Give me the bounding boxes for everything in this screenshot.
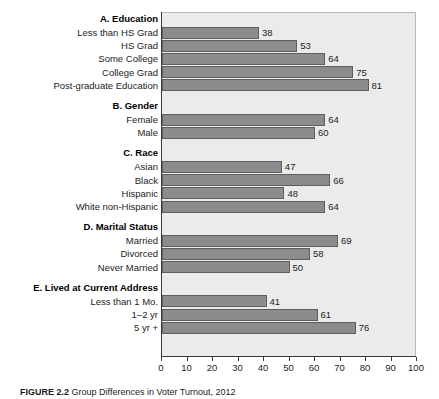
- bar-row: Less than HS Grad38: [0, 26, 439, 39]
- group-header-5: E. Lived at Current Address: [0, 281, 158, 294]
- bar-value-label: 50: [293, 261, 304, 274]
- bar-row: Black66: [0, 174, 439, 187]
- bar-category-label: Hispanic: [0, 187, 158, 200]
- bar: [162, 27, 259, 39]
- bar: [162, 201, 325, 213]
- bar-value-label: 64: [328, 200, 339, 213]
- group-header-4: D. Marital Status: [0, 220, 158, 233]
- group-header-1: A. Education: [0, 12, 158, 25]
- bar: [162, 40, 297, 52]
- x-axis-tick: [289, 357, 290, 361]
- figure-container: A. EducationLess than HS Grad38HS Grad53…: [0, 0, 439, 399]
- bar-value-label: 53: [300, 39, 311, 52]
- bar-category-label: Never Married: [0, 261, 158, 274]
- bar-value-label: 38: [262, 26, 273, 39]
- bar: [162, 174, 330, 186]
- bar-value-label: 61: [321, 308, 332, 321]
- bar-category-label: 5 yr +: [0, 321, 158, 334]
- bar: [162, 261, 290, 273]
- bar-category-label: HS Grad: [0, 39, 158, 52]
- x-axis-tick-label: 80: [360, 362, 371, 374]
- bar-row: College Grad75: [0, 66, 439, 79]
- bar: [162, 66, 353, 78]
- x-axis-tick: [314, 357, 315, 361]
- bar-category-label: Some College: [0, 52, 158, 65]
- x-axis-tick: [340, 357, 341, 361]
- bar-value-label: 64: [328, 52, 339, 65]
- bar-row: Female64: [0, 113, 439, 126]
- figure-caption-label: FIGURE 2.2: [20, 387, 69, 397]
- bar: [162, 127, 315, 139]
- figure-caption: FIGURE 2.2 Group Differences in Voter Tu…: [20, 386, 439, 399]
- x-axis-tick-label: 90: [385, 362, 396, 374]
- bar-value-label: 41: [270, 295, 281, 308]
- bar-value-label: 58: [313, 247, 324, 260]
- x-axis-tick: [212, 357, 213, 361]
- bar: [162, 295, 267, 307]
- x-axis-tick: [187, 357, 188, 361]
- x-axis-tick-label: 40: [258, 362, 269, 374]
- bar: [162, 322, 356, 334]
- bar-category-label: Less than HS Grad: [0, 26, 158, 39]
- bar-row: Hispanic48: [0, 187, 439, 200]
- x-axis-tick: [161, 357, 162, 361]
- x-axis-tick-label: 30: [232, 362, 243, 374]
- bar-category-label: Divorced: [0, 247, 158, 260]
- x-axis-tick: [263, 357, 264, 361]
- x-axis-tick-label: 70: [334, 362, 345, 374]
- bar-category-label: Black: [0, 174, 158, 187]
- bar-category-label: Married: [0, 234, 158, 247]
- x-axis-tick-label: 0: [158, 362, 163, 374]
- bar-row: Divorced58: [0, 247, 439, 260]
- bar-category-label: Less than 1 Mo.: [0, 295, 158, 308]
- bar-row: HS Grad53: [0, 39, 439, 52]
- bar-category-label: Male: [0, 126, 158, 139]
- bar: [162, 114, 325, 126]
- bar-category-label: Post-graduate Education: [0, 79, 158, 92]
- bar-category-label: 1–2 yr: [0, 308, 158, 321]
- x-axis-tick-label: 10: [181, 362, 192, 374]
- bar-value-label: 69: [341, 234, 352, 247]
- bar: [162, 187, 284, 199]
- figure-caption-text: Group Differences in Voter Turnout, 2012: [72, 387, 236, 397]
- x-axis-tick: [391, 357, 392, 361]
- bar: [162, 309, 318, 321]
- bar: [162, 248, 310, 260]
- bar-row: Less than 1 Mo.41: [0, 295, 439, 308]
- bar: [162, 161, 282, 173]
- bar-value-label: 81: [372, 79, 383, 92]
- bar-value-label: 64: [328, 113, 339, 126]
- bar-value-label: 66: [333, 174, 344, 187]
- bar-category-label: Female: [0, 113, 158, 126]
- bar-row: Never Married50: [0, 261, 439, 274]
- x-axis-tick-label: 50: [283, 362, 294, 374]
- group-header-3: C. Race: [0, 146, 158, 159]
- bar-row: Some College64: [0, 52, 439, 65]
- bar: [162, 235, 338, 247]
- x-axis-tick-label: 20: [207, 362, 218, 374]
- bar-row: Married69: [0, 234, 439, 247]
- bar-row: Asian47: [0, 160, 439, 173]
- group-header-2: B. Gender: [0, 99, 158, 112]
- bar-row: Male60: [0, 126, 439, 139]
- bar-value-label: 76: [359, 321, 370, 334]
- bar-value-label: 47: [285, 160, 296, 173]
- x-axis-tick-label: 100: [408, 362, 424, 374]
- bar-row: 5 yr +76: [0, 321, 439, 334]
- bar: [162, 53, 325, 65]
- bar-category-label: Asian: [0, 160, 158, 173]
- bar-value-label: 48: [287, 187, 298, 200]
- bar-row: Post-graduate Education81: [0, 79, 439, 92]
- x-axis-tick: [416, 357, 417, 361]
- bar-row: 1–2 yr61: [0, 308, 439, 321]
- bar-value-label: 60: [318, 126, 329, 139]
- bar: [162, 79, 369, 91]
- bar-category-label: White non-Hispanic: [0, 200, 158, 213]
- x-axis-tick-label: 60: [309, 362, 320, 374]
- bar-row: White non-Hispanic64: [0, 200, 439, 213]
- bar-value-label: 75: [356, 66, 367, 79]
- bar-category-label: College Grad: [0, 66, 158, 79]
- x-axis-tick: [365, 357, 366, 361]
- x-axis-tick: [238, 357, 239, 361]
